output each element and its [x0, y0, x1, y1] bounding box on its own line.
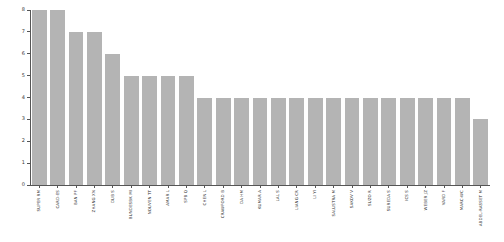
x-axis-tick-label: LIANG CR: [295, 190, 299, 210]
x-axis-tick-mark: [352, 185, 353, 188]
x-axis-tick-label: DUB S: [111, 190, 115, 203]
y-axis-tick-label: 3: [22, 115, 25, 122]
x-axis-tick-label: SUZO R: [368, 190, 372, 206]
y-axis-ticks: 012345678: [0, 0, 30, 196]
bar: [50, 10, 65, 185]
x-axis-tick-mark: [39, 185, 40, 188]
y-axis-tick-label: 7: [22, 28, 25, 35]
x-axis-tick-mark: [76, 185, 77, 188]
x-axis-tick-mark: [333, 185, 334, 188]
x-axis-tick-mark: [278, 185, 279, 188]
x-axis-tick-mark: [186, 185, 187, 188]
bar: [308, 98, 323, 186]
bar: [289, 98, 304, 186]
x-axis-tick-label: SPB Q: [184, 190, 188, 203]
x-axis-tick-mark: [407, 185, 408, 188]
bar: [418, 98, 433, 186]
x-axis-tick-label: CRAWFORD B: [221, 190, 225, 218]
bar: [253, 98, 268, 186]
bar: [161, 76, 176, 185]
bar: [400, 98, 415, 186]
x-axis-tick-label: ICS S: [405, 190, 409, 201]
x-axis-tick-mark: [94, 185, 95, 188]
y-axis-tick-label: 0: [22, 181, 25, 188]
x-axis-tick-mark: [296, 185, 297, 188]
x-axis-tick-label: LI YI: [313, 190, 317, 199]
x-axis-tick-label: AMAR L: [166, 190, 170, 206]
x-axis-tick-mark: [462, 185, 463, 188]
bar: [142, 76, 157, 185]
bar: [363, 98, 378, 186]
x-axis-tick-label: KUMAR A: [258, 190, 262, 209]
x-axis-tick-mark: [112, 185, 113, 188]
x-axis-tick-mark: [444, 185, 445, 188]
x-axis-tick-mark: [241, 185, 242, 188]
x-axis-tick-label: LAL S: [276, 190, 280, 202]
x-axis-tick-label: SUPER RM: [37, 190, 41, 212]
x-axis-tick-mark: [204, 185, 205, 188]
x-axis-tick-mark: [168, 185, 169, 188]
x-axis-tick-label: BUNDESBK MI: [129, 190, 133, 219]
bar-series: [30, 10, 490, 185]
x-axis-tick-mark: [370, 185, 371, 188]
x-axis-tick-mark: [223, 185, 224, 188]
bar: [473, 119, 488, 185]
bar: [345, 98, 360, 186]
bar: [271, 98, 286, 186]
bar: [326, 98, 341, 186]
bar: [124, 76, 139, 185]
x-axis-tick-mark: [57, 185, 58, 188]
x-axis-tick-mark: [425, 185, 426, 188]
bar: [381, 98, 396, 186]
x-axis-tick-label: CARD-ES: [56, 190, 60, 209]
bar: [455, 98, 470, 186]
bar: [87, 32, 102, 185]
x-axis-tick-label: SUREDA S: [387, 190, 391, 211]
x-axis-tick-mark: [480, 185, 481, 188]
bar: [216, 98, 231, 186]
bar: [197, 98, 212, 186]
y-axis-tick-label: 6: [22, 50, 25, 57]
x-axis-tick-label: SAKOV V: [350, 190, 354, 208]
x-axis-tick-label: SALUSTRA M: [332, 190, 336, 216]
x-axis-tick-mark: [388, 185, 389, 188]
y-axis-tick-label: 4: [22, 94, 25, 101]
x-axis-tick-label: ZHANG XN: [92, 190, 96, 212]
bar: [234, 98, 249, 186]
x-axis-tick-label: NOUVEN TT: [148, 190, 152, 214]
x-axis-tick-mark: [315, 185, 316, 188]
bar: [69, 32, 84, 185]
y-axis-tick-label: 8: [22, 6, 25, 13]
x-axis-ticks: SUPER RMCARD-ESBAN PFZHANG XNDUB SBUNDES…: [30, 185, 490, 242]
bar: [32, 10, 47, 185]
bar: [437, 98, 452, 186]
x-axis-tick-label: CHEN L: [203, 190, 207, 205]
x-axis-tick-label: MARC-WC: [460, 190, 464, 210]
bar: [179, 76, 194, 185]
x-axis-tick-label: VARD F: [442, 190, 446, 205]
x-axis-tick-mark: [131, 185, 132, 188]
x-axis-tick-mark: [260, 185, 261, 188]
y-axis-tick-label: 5: [22, 72, 25, 79]
x-axis-tick-label: WEBER JZ: [424, 190, 428, 211]
y-axis-tick-label: 1: [22, 159, 25, 166]
x-axis-tick-label: DA HM: [240, 190, 244, 204]
x-axis-tick-mark: [149, 185, 150, 188]
x-axis-tick-label: BAN PF: [74, 190, 78, 205]
bar: [105, 54, 120, 185]
x-axis-tick-label: ABDEL-RASSET M: [479, 190, 483, 226]
y-axis-tick-label: 2: [22, 137, 25, 144]
bar-chart-figure: 012345678 SUPER RMCARD-ESBAN PFZHANG XND…: [0, 0, 504, 242]
